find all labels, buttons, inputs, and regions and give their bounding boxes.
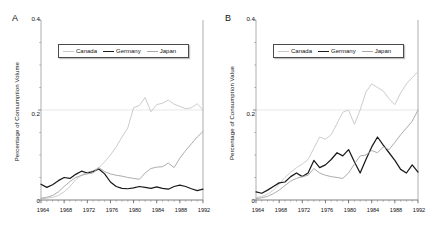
legend-item-canada: Canada — [278, 48, 312, 54]
legend-item-japan: Japan — [147, 48, 176, 54]
legend-swatch-canada-icon — [278, 51, 289, 52]
legend-swatch-germany-icon — [318, 51, 329, 52]
panel-b-plot — [221, 0, 441, 229]
panel-a: A Percentage of Consumption Volume 0.4 0… — [0, 0, 220, 229]
legend-label: Germany — [331, 48, 356, 54]
legend-label: Canada — [76, 48, 97, 54]
legend-swatch-japan-icon — [147, 51, 158, 52]
panel-b-legend: CanadaGermanyJapan — [273, 44, 404, 58]
legend-item-germany: Germany — [318, 48, 356, 54]
legend-item-canada: Canada — [63, 48, 97, 54]
panel-a-plot — [0, 0, 220, 229]
legend-label: Germany — [116, 48, 141, 54]
legend-item-germany: Germany — [103, 48, 141, 54]
legend-swatch-canada-icon — [63, 51, 74, 52]
legend-item-japan: Japan — [362, 48, 391, 54]
legend-label: Japan — [160, 48, 176, 54]
figure-container: A Percentage of Consumption Volume 0.4 0… — [0, 0, 441, 229]
legend-label: Japan — [375, 48, 391, 54]
panel-b: B Percentage of Consumption Value 0.4 0.… — [221, 0, 441, 229]
legend-swatch-japan-icon — [362, 51, 373, 52]
legend-label: Canada — [291, 48, 312, 54]
legend-swatch-germany-icon — [103, 51, 114, 52]
panel-a-legend: CanadaGermanyJapan — [58, 44, 189, 58]
